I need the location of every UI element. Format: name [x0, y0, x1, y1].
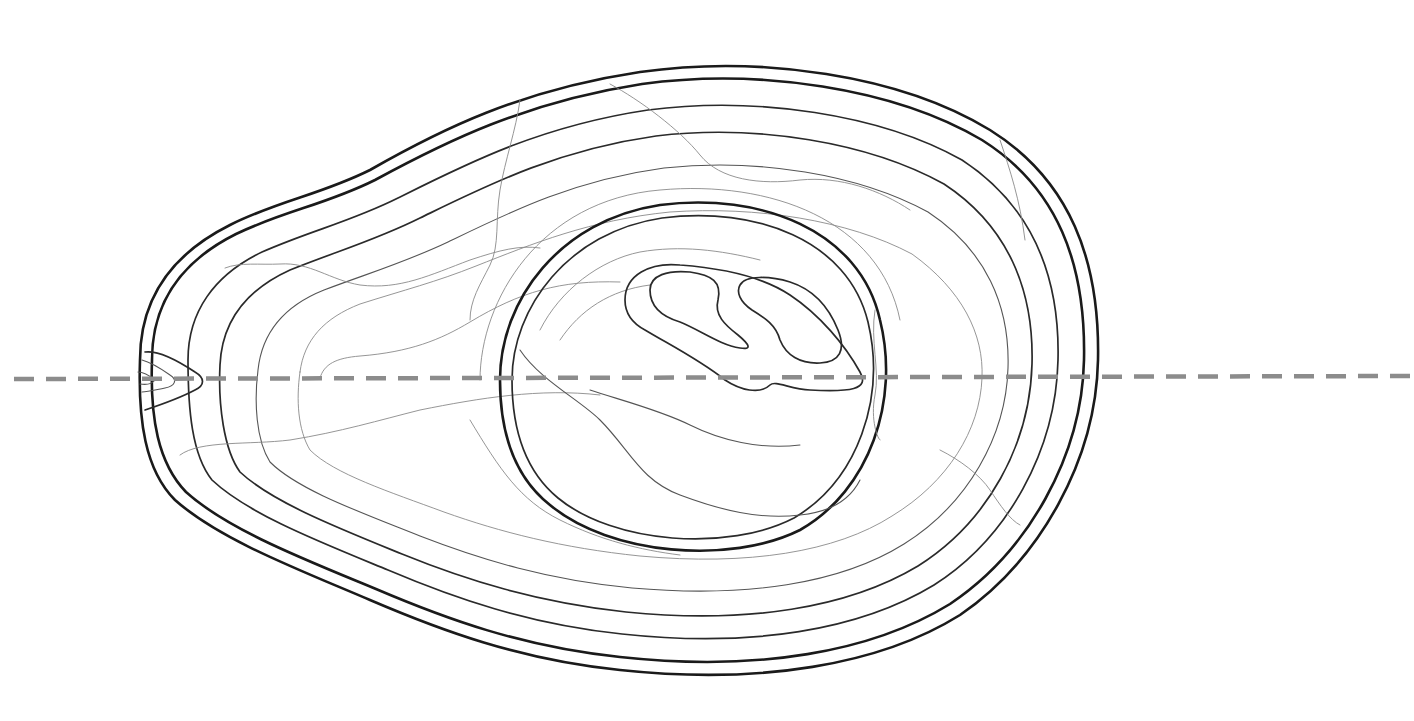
pit [480, 189, 900, 551]
inner-skin [188, 105, 1058, 638]
avocado-contour-diagram [0, 0, 1414, 721]
pit-contours [625, 265, 863, 391]
section-cut-line [14, 376, 1414, 379]
outer-skin [140, 66, 1098, 675]
flesh-contours [180, 84, 1025, 591]
